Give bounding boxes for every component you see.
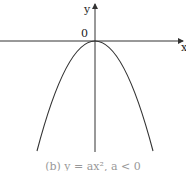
x-axis-label: x	[181, 41, 186, 54]
figure-caption: (b) y = ax², a < 0	[0, 160, 186, 171]
origin-label: 0	[81, 27, 88, 40]
parabola-diagram: y x 0	[0, 0, 186, 171]
y-axis-label: y	[83, 3, 91, 16]
